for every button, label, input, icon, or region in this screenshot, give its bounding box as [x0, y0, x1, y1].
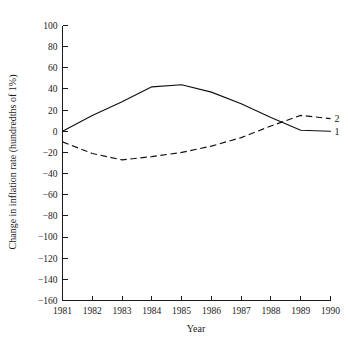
y-tick-group: [63, 26, 68, 301]
x-tick-label: 1989: [291, 306, 310, 316]
y-tick-label: 60: [48, 63, 58, 73]
y-tick-label: −60: [43, 190, 58, 200]
y-tick-label: 20: [48, 106, 58, 116]
x-axis-title: Year: [187, 323, 206, 334]
x-tick-label: 1982: [83, 306, 102, 316]
chart-figure: 100806040200−20−40−60−80−100−120−140−160…: [0, 0, 348, 339]
y-tick-label: −40: [43, 169, 58, 179]
y-tick-label: −140: [38, 275, 58, 285]
x-tick-label-group: 1981198219831984198519861987198819891990: [53, 306, 340, 316]
x-tick-label: 1986: [202, 306, 221, 316]
line-chart-plot: 100806040200−20−40−60−80−100−120−140−160…: [0, 0, 348, 339]
series-end-label-2: 2: [335, 113, 340, 124]
series-line-1: [63, 85, 331, 132]
x-tick-label: 1983: [113, 306, 132, 316]
y-tick-label: 40: [48, 84, 58, 94]
x-tick-label: 1984: [142, 306, 161, 316]
axes-group: [63, 26, 331, 301]
y-tick-label: 80: [48, 42, 58, 52]
y-tick-label: −80: [43, 211, 58, 221]
series-end-label-group: 12: [335, 113, 340, 137]
series-end-label-1: 1: [335, 126, 340, 137]
series-group: [63, 85, 331, 160]
x-tick-label: 1988: [261, 306, 280, 316]
series-line-2: [63, 115, 331, 159]
y-tick-label: −160: [38, 296, 58, 306]
x-tick-label: 1981: [53, 306, 72, 316]
y-tick-label: −100: [38, 232, 58, 242]
x-tick-group: [63, 296, 331, 301]
y-tick-label: −120: [38, 254, 58, 264]
y-tick-label: −20: [43, 148, 58, 158]
x-tick-label: 1990: [321, 306, 340, 316]
x-tick-label: 1985: [172, 306, 191, 316]
y-axis-title: Change in inflation rate (hundredths of …: [7, 75, 19, 250]
y-tick-label: 100: [43, 21, 58, 31]
y-tick-label: 0: [53, 127, 58, 137]
x-tick-label: 1987: [232, 306, 251, 316]
y-tick-label-group: 100806040200−20−40−60−80−100−120−140−160: [38, 21, 58, 306]
